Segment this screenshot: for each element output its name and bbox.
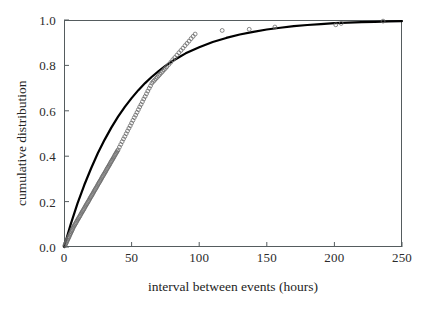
plot-frame bbox=[64, 20, 402, 247]
y-tick-label-1: 0.2 bbox=[39, 195, 56, 208]
y-tick-label-2: 0.4 bbox=[39, 150, 56, 163]
y-tick-label-4: 0.8 bbox=[39, 59, 56, 72]
x-tick-label-2: 100 bbox=[189, 251, 209, 264]
caption-remnant bbox=[0, 299, 423, 309]
x-tick-label-4: 200 bbox=[324, 251, 344, 264]
x-axis-title: interval between events (hours) bbox=[64, 279, 402, 295]
x-tick-label-5: 250 bbox=[392, 251, 412, 264]
x-tick-label-1: 50 bbox=[125, 251, 138, 264]
x-tick-label-0: 0 bbox=[61, 251, 68, 264]
figure-container: 050100150200250 0.00.20.40.60.81.0 inter… bbox=[0, 0, 423, 309]
y-tick-label-3: 0.6 bbox=[39, 104, 56, 117]
y-tick-label-5: 1.0 bbox=[39, 14, 56, 27]
y-tick-label-0: 0.0 bbox=[39, 241, 56, 254]
y-axis-title: cumulative distribution bbox=[14, 80, 30, 206]
x-tick-label-3: 150 bbox=[257, 251, 277, 264]
